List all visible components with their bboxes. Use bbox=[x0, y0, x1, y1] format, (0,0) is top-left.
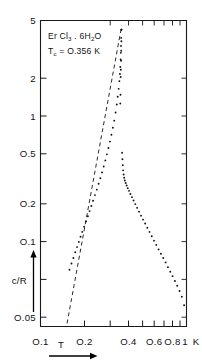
data-point bbox=[176, 285, 178, 287]
x-tick-label-0_4: O.4 bbox=[120, 336, 137, 347]
data-point bbox=[120, 50, 122, 52]
data-point bbox=[146, 227, 148, 229]
data-point bbox=[134, 203, 136, 205]
plot-frame bbox=[41, 21, 187, 327]
data-point bbox=[149, 231, 151, 233]
x-tick-label-0_6: O.6 bbox=[146, 336, 162, 347]
data-point bbox=[101, 171, 103, 173]
data-point bbox=[183, 304, 185, 306]
data-point bbox=[129, 193, 131, 195]
x-axis-ticks bbox=[41, 321, 187, 327]
data-point bbox=[120, 94, 122, 96]
data-point bbox=[94, 194, 96, 196]
data-point bbox=[142, 219, 144, 221]
data-point bbox=[123, 177, 125, 179]
data-point bbox=[120, 60, 122, 62]
data-point bbox=[120, 52, 122, 54]
data-point bbox=[103, 165, 105, 167]
data-point bbox=[109, 141, 111, 143]
data-point bbox=[138, 211, 140, 213]
data-point bbox=[133, 200, 135, 202]
data-point bbox=[123, 174, 125, 176]
x-tick-label-0_8: O.8 bbox=[164, 336, 180, 347]
data-point bbox=[127, 187, 129, 189]
data-point bbox=[179, 290, 181, 292]
data-point bbox=[115, 112, 117, 114]
data-point bbox=[169, 271, 171, 273]
plot-canvas: 5 2 1 O.5 O.2 O.1 O.05 O.1 O.2 O.4 O.6 O… bbox=[0, 0, 202, 363]
y-tick-label-0_05: O.05 bbox=[14, 312, 36, 323]
data-point bbox=[110, 134, 112, 136]
data-point bbox=[69, 269, 71, 271]
annotation-critical-temperature: Tc = O.356 K bbox=[48, 46, 100, 57]
data-point bbox=[128, 190, 130, 192]
data-point bbox=[117, 96, 119, 98]
data-series-high-temperature-branch bbox=[121, 152, 185, 306]
data-point bbox=[174, 280, 176, 282]
data-point bbox=[98, 183, 100, 185]
data-point bbox=[112, 127, 114, 129]
data-point bbox=[167, 266, 169, 268]
data-point bbox=[144, 223, 146, 225]
y-tick-label-0_1: O.1 bbox=[20, 236, 36, 247]
data-point bbox=[90, 205, 92, 207]
x-axis-label: T bbox=[58, 339, 64, 350]
data-point bbox=[120, 40, 122, 42]
data-point bbox=[74, 251, 76, 253]
asymptote-dashed-line bbox=[67, 26, 122, 324]
data-point bbox=[140, 215, 142, 217]
x-tick-label-0_2: O.2 bbox=[76, 336, 92, 347]
data-point bbox=[119, 73, 121, 75]
y-tick-label-2: 2 bbox=[30, 73, 36, 84]
data-point bbox=[162, 257, 164, 259]
data-point bbox=[104, 159, 106, 161]
data-point bbox=[119, 103, 121, 105]
x-tick-label-0_1: O.1 bbox=[32, 336, 48, 347]
data-point bbox=[120, 69, 122, 71]
data-point bbox=[120, 37, 122, 39]
data-point bbox=[165, 261, 167, 263]
y-tick-label-0_2: O.2 bbox=[20, 198, 36, 209]
data-point bbox=[118, 88, 120, 90]
data-point bbox=[78, 241, 80, 243]
data-point bbox=[121, 152, 123, 154]
x-axis-unit: K bbox=[193, 336, 200, 347]
data-point bbox=[87, 215, 89, 217]
y-axis-label-group: c/R bbox=[12, 250, 37, 312]
data-point bbox=[136, 207, 138, 209]
data-point bbox=[153, 240, 155, 242]
data-point bbox=[99, 177, 101, 179]
y-tick-label-1: 1 bbox=[30, 111, 36, 122]
data-point bbox=[122, 164, 124, 166]
x-tick-label-1: 1 bbox=[182, 336, 188, 347]
data-point bbox=[181, 296, 183, 298]
x-axis-ticks-top bbox=[110, 21, 180, 26]
data-point bbox=[92, 200, 94, 202]
data-point bbox=[81, 231, 83, 233]
data-point bbox=[131, 196, 133, 198]
data-point bbox=[120, 45, 122, 47]
y-axis-ticks bbox=[41, 21, 47, 318]
data-point bbox=[72, 257, 74, 259]
data-point bbox=[121, 158, 123, 160]
data-point bbox=[116, 103, 118, 105]
y-tick-label-0_5: O.5 bbox=[20, 148, 36, 159]
data-point bbox=[155, 244, 157, 246]
y-tick-label-5: 5 bbox=[30, 15, 36, 26]
y-axis-label: c/R bbox=[12, 275, 27, 286]
y-axis-ticks-right bbox=[182, 78, 187, 317]
data-point bbox=[96, 189, 98, 191]
data-point bbox=[89, 210, 91, 212]
data-point bbox=[113, 120, 115, 122]
data-point bbox=[118, 80, 120, 82]
data-point bbox=[106, 153, 108, 155]
data-point bbox=[83, 226, 85, 228]
data-point bbox=[121, 28, 123, 30]
data-point bbox=[85, 220, 87, 222]
data-point bbox=[122, 169, 124, 171]
data-point bbox=[151, 235, 153, 237]
data-point bbox=[108, 147, 110, 149]
data-point bbox=[126, 185, 128, 187]
data-point bbox=[120, 76, 122, 78]
data-point bbox=[119, 66, 121, 68]
